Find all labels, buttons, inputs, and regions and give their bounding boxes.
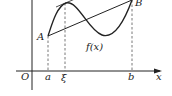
- mvt-diagram: A B f(x) O a ξ b x: [0, 0, 172, 96]
- label-origin: O: [21, 71, 29, 82]
- label-B: B: [134, 0, 142, 8]
- label-A: A: [36, 31, 44, 42]
- label-fx: f(x): [85, 41, 103, 52]
- label-b: b: [128, 71, 134, 82]
- label-x-axis: x: [156, 71, 162, 82]
- label-xi: ξ: [61, 72, 67, 83]
- label-a: a: [45, 71, 51, 82]
